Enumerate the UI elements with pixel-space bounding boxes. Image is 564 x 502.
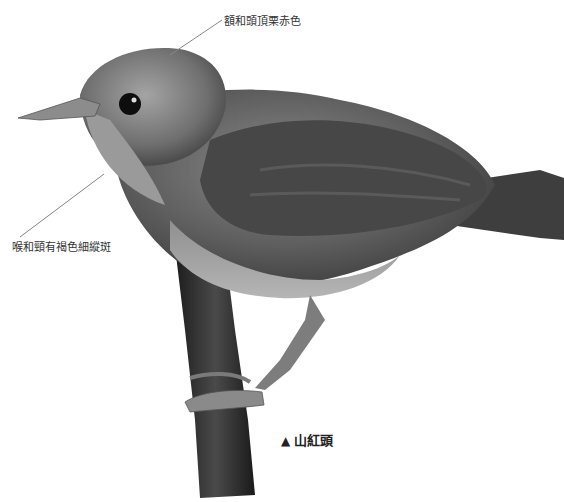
- caption-title: 山紅頭: [294, 433, 333, 448]
- triangle-marker-icon: ▲: [281, 434, 290, 448]
- crown-annotation-label: 額和頭頂栗赤色: [224, 12, 301, 28]
- throat-leader-line: [20, 174, 104, 237]
- eye: [119, 93, 141, 115]
- figure-caption: ▲山紅頭: [281, 430, 333, 449]
- leg: [255, 295, 325, 390]
- crown-leader-line: [170, 20, 222, 55]
- throat-annotation-label: 喉和頸有褐色細縱斑: [12, 238, 111, 254]
- beak: [18, 98, 100, 120]
- bird-illustration-figure: 額和頭頂栗赤色 喉和頸有褐色細縱斑 ▲山紅頭: [0, 0, 564, 502]
